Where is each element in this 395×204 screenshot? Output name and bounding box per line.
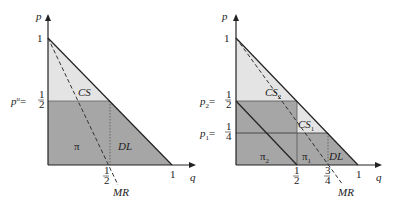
mr-label: MR <box>112 186 129 198</box>
dl-label: DL <box>117 140 132 152</box>
dl-label: DL <box>328 150 343 162</box>
p1-den: 4 <box>226 130 232 142</box>
q-threequarter-den: 4 <box>325 174 331 186</box>
p-axis-label: p <box>221 10 228 22</box>
p-tick-1: 1 <box>37 32 43 44</box>
p2-den: 2 <box>226 98 232 110</box>
price-1-label: p1= <box>199 127 215 142</box>
p-axis-arrow-icon <box>233 14 239 21</box>
monopoly-price-label: pu= <box>10 95 26 107</box>
cs-label: CS <box>78 86 91 98</box>
q-axis-label: q <box>190 171 196 183</box>
profit-area <box>48 101 110 165</box>
q-half-den: 2 <box>294 174 300 186</box>
q-half-den: 2 <box>104 174 110 186</box>
left-panel: p q 1 1 pu= 1 2 1 2 CS π DL MR <box>10 10 196 198</box>
mr-label: MR <box>337 186 354 198</box>
p-axis-label: p <box>35 10 42 22</box>
q-axis-label: q <box>376 171 382 183</box>
half-den: 2 <box>39 98 45 110</box>
p-axis-arrow-icon <box>45 14 51 21</box>
q-tick-1: 1 <box>356 168 362 180</box>
p-tick-1: 1 <box>224 32 230 44</box>
q-axis-arrow-icon <box>189 162 196 168</box>
diagram-canvas: p q 1 1 pu= 1 2 1 2 CS π DL MR <box>0 0 395 204</box>
profit-label: π <box>74 140 80 152</box>
price-2-label: p2= <box>199 95 215 110</box>
right-panel: p q 1 1 p2= 1 2 p1= 1 4 1 2 3 4 CS2 CS1 … <box>199 10 382 198</box>
q-axis-arrow-icon <box>375 162 382 168</box>
q-tick-1: 1 <box>170 168 176 180</box>
